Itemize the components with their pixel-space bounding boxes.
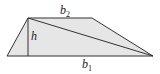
label-b2: b2 <box>60 3 70 19</box>
trapezoid-shape <box>7 18 153 56</box>
label-b1: b1 <box>82 57 92 73</box>
label-h: h <box>31 29 37 43</box>
trapezoid-diagram: b2 h b1 <box>0 0 160 74</box>
